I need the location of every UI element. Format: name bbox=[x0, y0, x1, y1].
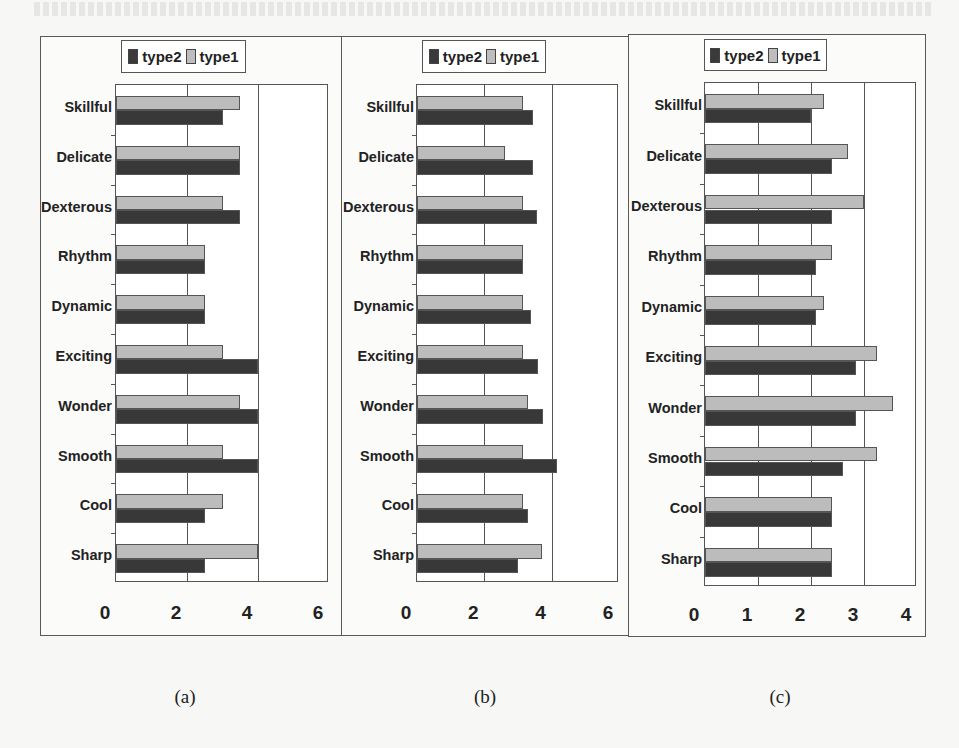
bar-type2-smooth bbox=[116, 459, 258, 473]
bar-type1-exciting bbox=[116, 345, 223, 359]
category-label: Wonder bbox=[648, 400, 702, 416]
category-label: Sharp bbox=[661, 551, 702, 567]
category-label: Sharp bbox=[71, 547, 112, 563]
bar-type1-dexterous bbox=[116, 196, 223, 210]
category-label: Skillful bbox=[654, 97, 702, 113]
category-label: Rhythm bbox=[360, 248, 414, 264]
bar-type2-dynamic bbox=[705, 310, 816, 325]
x-tick-label: 4 bbox=[535, 602, 546, 624]
y-tick bbox=[412, 185, 417, 186]
legend-item-type1: type1 bbox=[186, 48, 239, 65]
x-tick-label: 6 bbox=[603, 602, 614, 624]
category-label: Skillful bbox=[366, 99, 414, 115]
bar-type1-dynamic bbox=[116, 295, 205, 309]
bar-type1-skillful bbox=[417, 96, 523, 110]
bar-type2-dexterous bbox=[116, 210, 240, 224]
legend-item-type1: type1 bbox=[486, 48, 539, 65]
x-tick-label: 2 bbox=[795, 604, 806, 626]
bar-type1-delicate bbox=[417, 146, 505, 160]
y-tick bbox=[700, 537, 705, 538]
category-label: Cool bbox=[80, 497, 112, 513]
category-label: Smooth bbox=[648, 450, 702, 466]
legend-item-type1: type1 bbox=[768, 47, 821, 64]
y-tick bbox=[700, 385, 705, 386]
category-label: Dynamic bbox=[642, 299, 702, 315]
x-tick-label: 2 bbox=[468, 602, 479, 624]
bar-type1-smooth bbox=[417, 445, 523, 459]
y-tick bbox=[111, 334, 116, 335]
bar-type2-exciting bbox=[116, 359, 258, 373]
category-label: Exciting bbox=[358, 348, 414, 364]
category-label: Rhythm bbox=[58, 248, 112, 264]
x-tick-label: 1 bbox=[742, 604, 753, 626]
bar-type2-sharp bbox=[705, 562, 832, 577]
bar-type1-wonder bbox=[417, 395, 528, 409]
caption-c: (c) bbox=[769, 686, 790, 708]
background-bleed-text bbox=[34, 2, 934, 16]
y-tick bbox=[700, 184, 705, 185]
x-tick-label: 3 bbox=[848, 604, 859, 626]
legend-label-type2: type2 bbox=[724, 47, 763, 64]
bar-type2-sharp bbox=[116, 559, 205, 573]
y-tick bbox=[412, 135, 417, 136]
bar-type2-skillful bbox=[705, 109, 811, 124]
x-tick-label: 4 bbox=[242, 602, 253, 624]
y-tick bbox=[111, 434, 116, 435]
legend-swatch-type2 bbox=[429, 49, 439, 64]
bar-type2-dynamic bbox=[417, 310, 531, 324]
y-tick bbox=[412, 483, 417, 484]
bar-type2-skillful bbox=[116, 110, 223, 124]
y-tick bbox=[700, 436, 705, 437]
category-label: Smooth bbox=[360, 448, 414, 464]
y-tick bbox=[111, 533, 116, 534]
bar-type1-smooth bbox=[116, 445, 223, 459]
x-tick-label: 2 bbox=[171, 602, 182, 624]
bar-type1-rhythm bbox=[116, 245, 205, 259]
caption-b: (b) bbox=[474, 686, 496, 708]
y-tick bbox=[412, 234, 417, 235]
category-label: Dexterous bbox=[343, 199, 414, 215]
bar-type2-dexterous bbox=[417, 210, 537, 224]
bar-type2-cool bbox=[116, 509, 205, 523]
x-tick-label: 6 bbox=[313, 602, 324, 624]
category-label: Cool bbox=[670, 500, 702, 516]
bar-type1-delicate bbox=[116, 146, 240, 160]
bar-type1-wonder bbox=[705, 396, 893, 411]
bar-type1-cool bbox=[116, 494, 223, 508]
bar-type2-wonder bbox=[705, 411, 856, 426]
y-tick bbox=[111, 234, 116, 235]
category-label: Dynamic bbox=[52, 298, 112, 314]
legend-label-type1: type1 bbox=[782, 47, 821, 64]
gridline bbox=[864, 83, 865, 585]
bar-type2-delicate bbox=[417, 160, 533, 174]
bar-type1-exciting bbox=[417, 345, 523, 359]
y-tick bbox=[412, 284, 417, 285]
category-label: Smooth bbox=[58, 448, 112, 464]
chart-c-plot-area bbox=[704, 82, 916, 586]
bar-type1-rhythm bbox=[705, 245, 832, 260]
bar-type2-delicate bbox=[705, 159, 832, 174]
legend-item-type2: type2 bbox=[128, 48, 181, 65]
legend-label-type2: type2 bbox=[142, 48, 181, 65]
bar-type2-rhythm bbox=[417, 260, 523, 274]
y-tick bbox=[700, 486, 705, 487]
chart-b-legend: type2type1 bbox=[422, 40, 546, 73]
bar-type2-wonder bbox=[116, 409, 258, 423]
y-tick bbox=[111, 185, 116, 186]
legend-label-type1: type1 bbox=[200, 48, 239, 65]
bar-type1-rhythm bbox=[417, 245, 523, 259]
x-tick-label: 4 bbox=[901, 604, 912, 626]
bar-type2-exciting bbox=[417, 359, 538, 373]
bar-type2-sharp bbox=[417, 559, 518, 573]
y-tick bbox=[412, 434, 417, 435]
x-tick-label: 0 bbox=[401, 602, 412, 624]
category-label: Sharp bbox=[373, 547, 414, 563]
chart-a-legend: type2type1 bbox=[121, 40, 246, 73]
bar-type2-exciting bbox=[705, 361, 856, 376]
category-label: Wonder bbox=[360, 398, 414, 414]
y-tick bbox=[700, 285, 705, 286]
legend-label-type2: type2 bbox=[443, 48, 482, 65]
y-tick bbox=[111, 483, 116, 484]
bar-type1-exciting bbox=[705, 346, 877, 361]
bar-type1-sharp bbox=[417, 544, 542, 558]
